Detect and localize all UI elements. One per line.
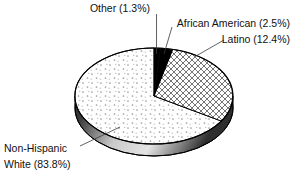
label-non-hispanic-white-line2: White (83.8%) (4, 158, 71, 170)
pie-top-face (75, 48, 233, 144)
label-african-american: African American (2.5%) (177, 17, 290, 29)
label-non-hispanic-white-line1: Non-Hispanic (4, 142, 67, 154)
pie-chart-svg: Other (1.3%) African American (2.5%) Lat… (0, 0, 295, 178)
label-latino: Latino (12.4%) (222, 33, 290, 45)
pie-chart-figure: Other (1.3%) African American (2.5%) Lat… (0, 0, 295, 178)
label-other: Other (1.3%) (90, 2, 150, 14)
leader-line-latino (196, 40, 224, 56)
